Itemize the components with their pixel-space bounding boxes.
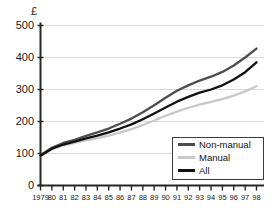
line-chart: £ 0100200300400500 197980818283848586878… — [0, 0, 274, 217]
legend-label: All — [199, 166, 210, 176]
gridlines — [41, 26, 265, 154]
legend-label: Manual — [199, 153, 230, 163]
legend-item-manual: Manual — [173, 151, 263, 164]
y-tick-label: 500 — [2, 20, 34, 31]
y-tick-label: 100 — [2, 148, 34, 159]
legend-label: Non-manual — [199, 140, 251, 150]
y-tick-label: 400 — [2, 52, 34, 63]
legend-swatch-icon — [178, 169, 195, 172]
legend-swatch-icon — [178, 156, 195, 159]
legend-swatch-icon — [178, 143, 195, 146]
legend-item-non-manual: Non-manual — [173, 138, 263, 151]
chart-canvas — [0, 0, 274, 217]
y-tick-label: 300 — [2, 84, 34, 95]
chart-legend: Non-manualManualAll — [172, 137, 264, 180]
x-tick-label: 98 — [250, 193, 264, 202]
y-tick-label: 0 — [2, 180, 34, 191]
legend-item-all: All — [173, 164, 263, 177]
y-tick-label: 200 — [2, 116, 34, 127]
